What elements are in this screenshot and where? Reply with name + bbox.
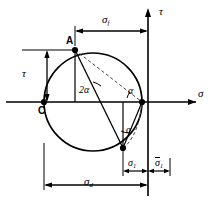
top-dimension-sigma-f <box>75 26 148 46</box>
sigma-d-subscript: d <box>90 181 93 188</box>
angle-2alpha-label: 2α <box>79 85 89 95</box>
point-c-label: C <box>38 106 45 116</box>
mohr-circle-drawing <box>0 0 219 207</box>
chord-lines <box>75 50 142 148</box>
sigma-1-label: σ1 <box>128 158 136 169</box>
point-a-label: A <box>66 36 73 46</box>
sigma-f-base: σ <box>102 13 107 25</box>
sigma-d-dimension-label: σd <box>84 176 93 189</box>
point-pole-marker <box>139 99 145 105</box>
sigma-axis-label: σ <box>198 88 203 99</box>
tau-axis-label: τ <box>159 6 163 17</box>
sigma-f-subscript: f <box>108 19 110 26</box>
angle-alpha-right-label: α <box>128 86 133 96</box>
left-dimension-tau <box>22 50 74 102</box>
sigma-f-dimension-label: σf <box>102 14 109 27</box>
sigma-1-bar-subscript: 1 <box>160 162 163 169</box>
tau-dimension-label: τ <box>22 68 26 79</box>
sigma-1-bar-label: σ1 <box>155 157 163 169</box>
dashed-construction-lines <box>75 50 142 148</box>
angle-alpha-lower-label: α <box>126 125 131 135</box>
sigma-1-subscript: 1 <box>133 162 136 169</box>
sigma-d-base: σ <box>84 175 89 187</box>
mohr-circle-figure: τ σ σf τ A C 2α α α σ1 σ1 σd <box>0 0 219 207</box>
